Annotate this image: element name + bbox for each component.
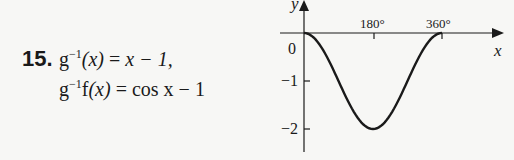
y-tick-label-neg1: −1: [281, 72, 298, 89]
y-axis-label: y: [289, 0, 299, 13]
x-tick-label-360: 360°: [426, 16, 451, 31]
x-axis-label: x: [493, 41, 502, 60]
y-axis-arrow-icon: [299, 0, 309, 11]
curve-cos-x-minus-1: [304, 33, 442, 129]
x-tick-label-180: 180°: [360, 16, 385, 31]
graph: y x 0 180° 360° −1 −2: [0, 0, 514, 160]
x-axis-arrow-icon: [492, 28, 504, 38]
y-tick-label-neg2: −2: [281, 120, 298, 137]
origin-label: 0: [288, 40, 296, 57]
